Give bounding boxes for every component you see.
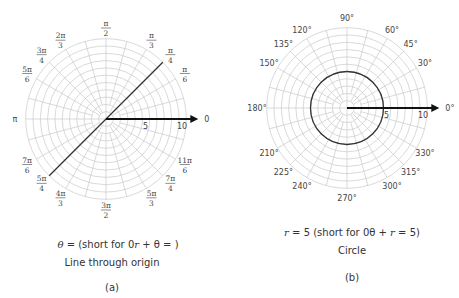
angle-label-fraction: 3π2 bbox=[101, 201, 111, 220]
grid-spoke bbox=[351, 122, 368, 185]
title-b: Circle bbox=[338, 245, 366, 256]
equation-a: θ = (short for 0r + θ = ) bbox=[57, 239, 178, 250]
angle-label: 300° bbox=[382, 182, 401, 191]
panel-label-a: (a) bbox=[105, 282, 119, 293]
polar-plot-a: 5100π6π4π3π22π33π45π6π7π65π44π33π25π37π4… bbox=[13, 19, 210, 220]
angle-label: 30° bbox=[418, 59, 432, 68]
angle-label: 0 bbox=[204, 115, 209, 124]
title-a: Line through origin bbox=[65, 257, 160, 268]
fraction-numerator: 5π bbox=[22, 65, 32, 74]
angle-label: 225° bbox=[274, 168, 293, 177]
grid-spoke bbox=[361, 87, 424, 104]
fraction-numerator: 7π bbox=[22, 156, 32, 165]
grid-spoke bbox=[269, 87, 332, 104]
fraction-denominator: 6 bbox=[182, 166, 187, 175]
equation-b: r = 5 (short for 0θ + r = 5) bbox=[284, 227, 420, 238]
angle-label: 330° bbox=[415, 149, 434, 158]
fraction-numerator: 11π bbox=[178, 156, 193, 165]
angle-label: 240° bbox=[292, 182, 311, 191]
fraction-numerator: 3π bbox=[37, 46, 47, 55]
angle-label-fraction: 11π6 bbox=[178, 156, 193, 175]
caption-a: θ = (short for 0r + θ = ) Line through o… bbox=[57, 239, 178, 293]
fraction-denominator: 6 bbox=[182, 75, 187, 84]
fraction-denominator: 2 bbox=[104, 29, 109, 38]
angle-label-fraction: π4 bbox=[165, 46, 175, 65]
angle-label: 315° bbox=[401, 168, 420, 177]
angle-label: π bbox=[13, 115, 18, 124]
fraction-numerator: 4π bbox=[56, 189, 66, 198]
grid-spoke bbox=[85, 133, 102, 196]
angle-label: 0° bbox=[445, 104, 454, 113]
panel-label-b: (b) bbox=[345, 272, 359, 283]
grid-spoke bbox=[361, 112, 424, 129]
angle-label-fraction: 5π6 bbox=[22, 65, 32, 84]
polar-plot-b: 5100°30°45°60°90°120°135°150°180°210°225… bbox=[247, 14, 454, 203]
angle-label: 180° bbox=[247, 104, 266, 113]
fraction-numerator: π bbox=[149, 31, 154, 40]
angle-label: 210° bbox=[259, 149, 278, 158]
fraction-denominator: 3 bbox=[58, 41, 63, 50]
caption-b: r = 5 (short for 0θ + r = 5) Circle (b) bbox=[284, 227, 420, 283]
fraction-numerator: 5π bbox=[37, 174, 47, 183]
angle-label: 120° bbox=[292, 26, 311, 35]
fraction-denominator: 4 bbox=[168, 184, 173, 193]
angle-label-fraction: 7π4 bbox=[165, 174, 175, 193]
grid-spoke bbox=[120, 123, 183, 140]
fraction-numerator: 7π bbox=[165, 174, 175, 183]
angle-label-fraction: 5π3 bbox=[147, 189, 157, 208]
fraction-numerator: π bbox=[182, 65, 187, 74]
fraction-numerator: 3π bbox=[101, 201, 111, 210]
grid-spoke bbox=[110, 41, 127, 104]
fraction-denominator: 4 bbox=[39, 56, 44, 65]
radial-label: 5 bbox=[143, 122, 148, 131]
angle-label-fraction: π6 bbox=[180, 65, 190, 84]
angle-label: 135° bbox=[274, 40, 293, 49]
fraction-denominator: 3 bbox=[149, 41, 154, 50]
fraction-denominator: 4 bbox=[168, 56, 173, 65]
grid-spoke bbox=[28, 123, 91, 140]
angle-label-fraction: 7π6 bbox=[22, 156, 32, 175]
grid-spoke bbox=[326, 30, 343, 93]
angle-label: 45° bbox=[404, 40, 418, 49]
angle-label-fraction: 2π3 bbox=[56, 31, 66, 50]
angle-label: 270° bbox=[337, 194, 356, 203]
polar-figures: 5100π6π4π3π22π33π45π6π7π65π44π33π25π37π4… bbox=[0, 0, 459, 298]
grid-spoke bbox=[85, 41, 102, 104]
fraction-numerator: π bbox=[168, 46, 173, 55]
angle-label-fraction: 3π4 bbox=[37, 46, 47, 65]
angle-label-fraction: π3 bbox=[147, 31, 157, 50]
grid-spoke bbox=[269, 112, 332, 129]
angle-label: 60° bbox=[385, 26, 399, 35]
fraction-denominator: 3 bbox=[149, 199, 154, 208]
fraction-denominator: 3 bbox=[58, 199, 63, 208]
fraction-denominator: 6 bbox=[25, 75, 30, 84]
angle-label-fraction: 5π4 bbox=[37, 174, 47, 193]
fraction-denominator: 6 bbox=[25, 166, 30, 175]
grid-spoke bbox=[120, 98, 183, 115]
angle-label-fraction: π2 bbox=[101, 19, 111, 38]
angle-label: 150° bbox=[259, 59, 278, 68]
grid-spoke bbox=[110, 133, 127, 196]
radial-label: 10 bbox=[177, 122, 187, 131]
angle-label: 90° bbox=[340, 14, 354, 23]
fraction-denominator: 2 bbox=[104, 211, 109, 220]
radial-label: 10 bbox=[418, 111, 428, 120]
fraction-numerator: 5π bbox=[147, 189, 157, 198]
fraction-numerator: π bbox=[104, 19, 109, 28]
fraction-numerator: 2π bbox=[56, 31, 66, 40]
radial-label: 5 bbox=[384, 111, 389, 120]
angle-label-fraction: 4π3 bbox=[56, 189, 66, 208]
fraction-denominator: 4 bbox=[39, 184, 44, 193]
grid-spoke bbox=[326, 122, 343, 185]
axis-arrowhead-icon bbox=[431, 104, 439, 112]
axis-arrowhead-icon bbox=[190, 115, 198, 123]
grid-spoke bbox=[351, 30, 368, 93]
grid-spoke bbox=[28, 98, 91, 115]
